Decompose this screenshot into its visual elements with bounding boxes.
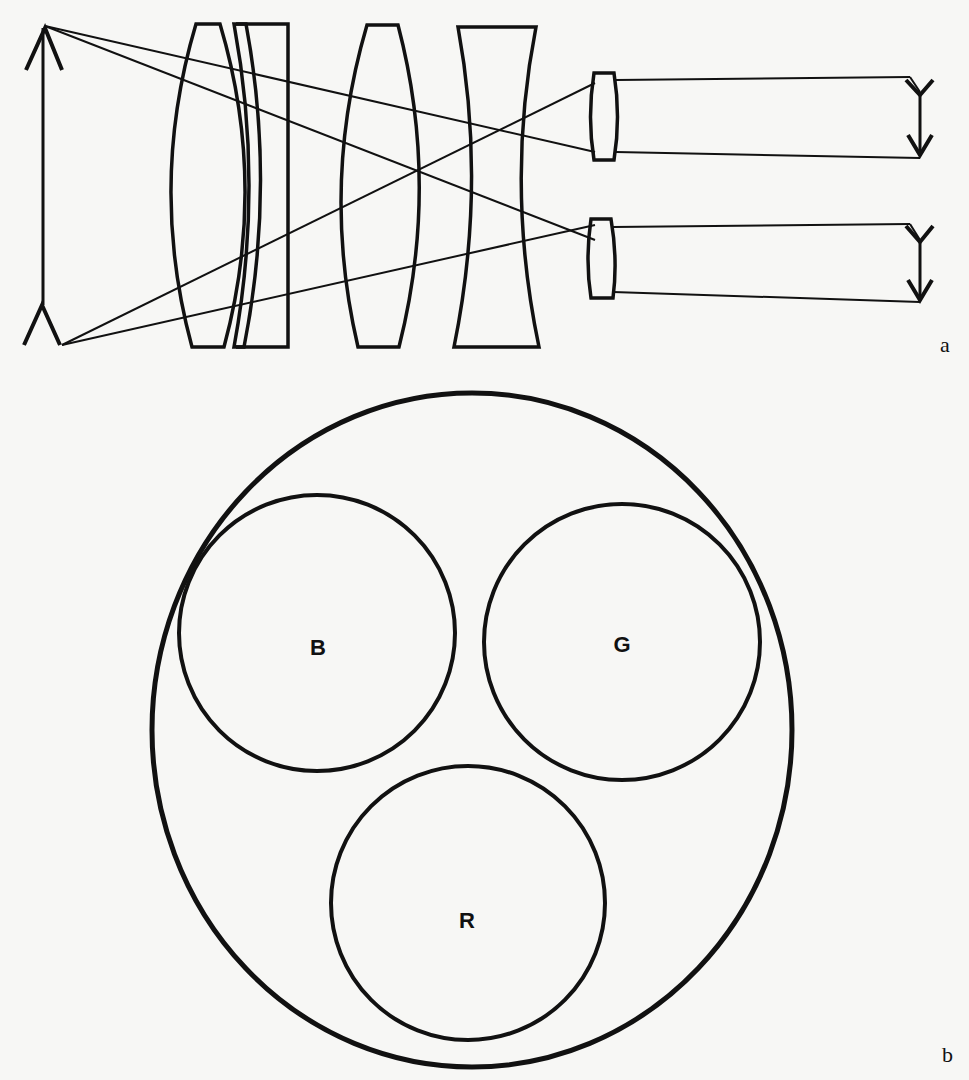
biconcave-lens xyxy=(454,27,539,347)
output-beam-bottom xyxy=(613,224,920,302)
light-rays xyxy=(45,26,595,345)
circle-g-label: G xyxy=(613,632,630,657)
figure-canvas: a B G R b xyxy=(0,0,969,1080)
output-beam-top xyxy=(616,77,920,158)
panel-a-lens-diagram: a xyxy=(24,24,950,357)
object-arrow-icon xyxy=(24,28,62,345)
circle-r xyxy=(331,766,605,1040)
image-arrow-bottom-icon xyxy=(906,226,933,300)
outer-circle xyxy=(152,393,792,1067)
circle-b-label: B xyxy=(310,635,326,660)
circle-r-label: R xyxy=(459,908,475,933)
panel-b-label: b xyxy=(942,1042,953,1067)
panel-a-label: a xyxy=(940,332,950,357)
relay-lens-bottom xyxy=(588,219,615,298)
biconvex-lens-2 xyxy=(341,25,419,347)
relay-lens-top xyxy=(591,73,618,160)
biconvex-lens-1 xyxy=(171,24,245,347)
circle-b xyxy=(179,495,455,771)
panel-b-circle-diagram: B G R b xyxy=(152,393,953,1067)
